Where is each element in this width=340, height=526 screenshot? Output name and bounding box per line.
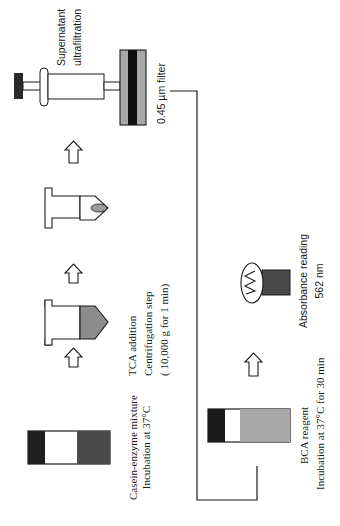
- ultrafiltration-label-line-1: Supernatant: [55, 9, 68, 66]
- ultrafiltration-label: Supernatant ultrafiltration: [55, 9, 84, 66]
- casein-label-line-2: Incubation at 37°C: [140, 395, 153, 500]
- absorbance-label: Absorbance reading 562 nm: [297, 234, 326, 328]
- bca-label: BCA reagent Incubation at 37°C for 30 mi…: [298, 358, 327, 490]
- lamp-cuvette-icon: [241, 263, 290, 303]
- arrow-up-icon: [65, 141, 82, 163]
- workflow-diagram: Casein-enzyme mixture Incubation at 37°C…: [0, 0, 340, 526]
- filter-icon: [120, 50, 146, 125]
- tca-label: TCA addition Centrifugation step ( 10,00…: [126, 284, 171, 376]
- casein-label: Casein-enzyme mixture Incubation at 37°C: [127, 395, 153, 500]
- centrifuge-tube-pellet-icon: [45, 188, 108, 228]
- absorbance-label-line-1: Absorbance reading: [297, 234, 310, 328]
- bca-tube-icon: [208, 409, 290, 442]
- casein-tube-icon: [28, 431, 110, 464]
- absorbance-label-line-2: 562 nm: [313, 234, 326, 328]
- tca-label-line-2: Centrifugation step: [142, 284, 155, 376]
- syringe-icon: [14, 68, 120, 106]
- bca-label-line-2: Incubation at 37°C for 30 min: [314, 358, 327, 490]
- arrow-up-icon: [245, 353, 262, 376]
- arrow-up-icon: [65, 348, 82, 367]
- centrifuge-tube-icon: [45, 300, 108, 345]
- filter-label: 0.45 µm filter: [155, 63, 168, 124]
- casein-label-line-1: Casein-enzyme mixture: [127, 395, 140, 500]
- filter-label-line-1: 0.45 µm filter: [155, 63, 168, 124]
- arrow-up-icon: [65, 264, 82, 283]
- tca-label-line-1: TCA addition: [126, 284, 139, 376]
- ultrafiltration-label-line-2: ultrafiltration: [71, 9, 84, 66]
- bca-label-line-1: BCA reagent: [298, 358, 311, 490]
- tca-label-line-3: ( 10,000 g for 1 min): [158, 284, 171, 376]
